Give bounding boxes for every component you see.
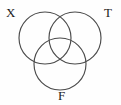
set-label-x: X [6,6,15,19]
set-label-f: F [58,89,65,102]
set-label-t: T [104,6,112,19]
venn-diagram-figure: X T F [0,0,121,105]
